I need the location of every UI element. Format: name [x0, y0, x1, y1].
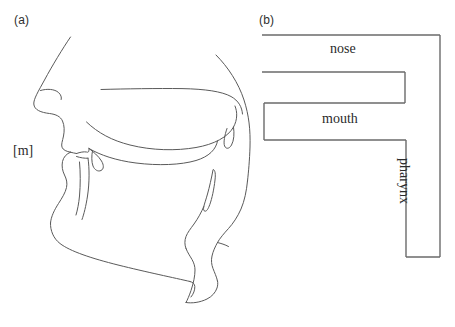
- nose-tube-label: nose: [330, 41, 356, 57]
- panel-a-vocal-tract-drawing: [0, 0, 260, 327]
- phoneme-label: [m]: [13, 143, 33, 159]
- mouth-tube-label: mouth: [322, 111, 358, 127]
- pharynx-tube-label: pharynx: [396, 158, 412, 204]
- figure-container: (a) [m] (b) nose mouth pharynx: [0, 0, 455, 327]
- panel-a-label: (a): [14, 13, 29, 27]
- panel-b-label: (b): [259, 13, 274, 27]
